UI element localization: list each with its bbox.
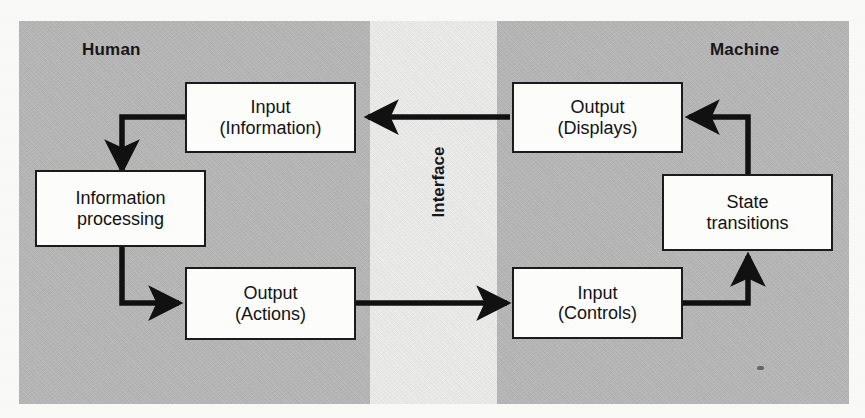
scan-speck: [757, 366, 764, 370]
machine-region-label: Machine: [710, 40, 779, 60]
node-state-transitions-line1: State: [706, 192, 788, 212]
node-machine-output-line2: (Displays): [557, 118, 637, 138]
node-machine-input[interactable]: Input (Controls): [512, 267, 683, 339]
node-information-processing-line1: Information: [75, 188, 165, 208]
node-machine-output[interactable]: Output (Displays): [512, 82, 683, 153]
node-human-input-line2: (Information): [219, 118, 321, 138]
node-machine-input-line1: Input: [558, 283, 637, 303]
diagram-page: Human Machine Interface Input (Informati…: [0, 0, 865, 418]
node-state-transitions[interactable]: State transitions: [662, 174, 833, 251]
node-information-processing[interactable]: Information processing: [35, 170, 206, 247]
human-region-label: Human: [82, 40, 141, 60]
node-machine-output-line1: Output: [557, 97, 637, 117]
node-human-input[interactable]: Input (Information): [185, 82, 356, 153]
node-human-output-line2: (Actions): [235, 304, 306, 324]
node-human-output[interactable]: Output (Actions): [185, 267, 356, 340]
node-state-transitions-line2: transitions: [706, 213, 788, 233]
node-human-output-line1: Output: [235, 283, 306, 303]
node-machine-input-line2: (Controls): [558, 303, 637, 323]
node-information-processing-line2: processing: [75, 209, 165, 229]
interface-region-label: Interface: [429, 127, 449, 237]
node-human-input-line1: Input: [219, 97, 321, 117]
